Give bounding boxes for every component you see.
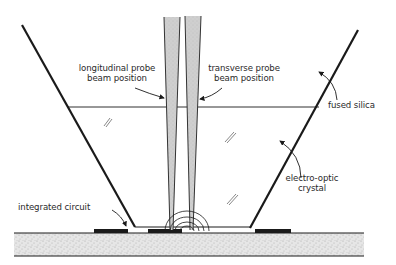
longitudinal-probe-label-line2: beam position — [68, 73, 166, 83]
longitudinal-probe-beam — [164, 17, 180, 230]
transverse-probe-label-line2: beam position — [200, 73, 288, 83]
leader-arrows — [112, 72, 337, 226]
transverse-probe-beam — [185, 16, 201, 230]
transverse-probe-label: transverse probe beam position — [200, 63, 288, 83]
substrate — [14, 233, 364, 256]
integrated-circuit-label: integrated circuit — [18, 202, 90, 212]
electro-optic-crystal-label: electro-optic crystal — [282, 173, 342, 193]
longitudinal-probe-label: longitudinal probe beam position — [68, 63, 166, 83]
electro-optic-crystal-label-line2: crystal — [282, 183, 342, 193]
longitudinal-probe-label-line1: longitudinal probe — [68, 63, 166, 73]
fused-silica-label: fused silica — [328, 100, 375, 110]
electro-optic-crystal-label-line1: electro-optic — [282, 173, 342, 183]
diagram-canvas — [0, 0, 396, 265]
transverse-probe-label-line1: transverse probe — [200, 63, 288, 73]
